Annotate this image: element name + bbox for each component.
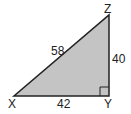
side-label-xy: 42 [57, 97, 71, 111]
vertex-label-x: X [8, 97, 16, 111]
side-label-xz: 58 [51, 44, 65, 58]
vertex-label-z: Z [104, 2, 111, 16]
side-label-yz: 40 [112, 52, 126, 66]
triangle-diagram: Z X Y 58 42 40 [0, 0, 131, 114]
vertex-label-y: Y [104, 97, 112, 111]
